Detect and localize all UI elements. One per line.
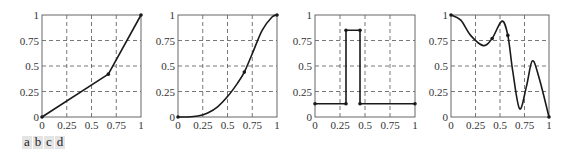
data-point-marker (358, 29, 362, 33)
panel-label-d[interactable]: d (55, 136, 65, 149)
data-point-marker (449, 13, 453, 17)
data-point-marker (313, 102, 317, 106)
y-tick-label: 1 (170, 9, 176, 21)
x-tick-label: 0.5 (493, 119, 507, 131)
data-point-marker (413, 102, 417, 106)
x-tick-label: 0 (448, 119, 454, 131)
data-point-marker (107, 72, 111, 76)
x-tick-label: 0.75 (243, 119, 263, 131)
x-tick-label: 0.25 (57, 119, 77, 131)
chart-panel-b: 00.250.50.75100.250.50.751 (156, 9, 280, 131)
data-point-marker (176, 115, 180, 119)
data-point-marker (344, 102, 348, 106)
y-tick-label: 0.5 (434, 60, 448, 72)
data-point-marker (490, 37, 494, 41)
panel-label-b[interactable]: b (33, 136, 43, 149)
x-tick-label: 0.25 (330, 119, 350, 131)
chart-panel-c: 00.250.50.75100.250.50.751 (293, 9, 418, 131)
y-tick-label: 0 (170, 111, 176, 123)
y-tick-label: 0 (307, 111, 313, 123)
y-tick-label: 0.25 (293, 86, 313, 98)
x-tick-label: 1 (546, 119, 552, 131)
y-tick-label: 1 (34, 9, 40, 21)
x-tick-label: 0.75 (380, 119, 400, 131)
x-tick-label: 0 (39, 119, 45, 131)
y-tick-label: 0.75 (293, 35, 313, 47)
x-tick-label: 0.25 (466, 119, 486, 131)
panel-label-row: a b c d (22, 136, 65, 149)
y-tick-label: 0 (443, 111, 449, 123)
data-point-marker (275, 13, 279, 17)
x-tick-label: 0.75 (107, 119, 127, 131)
y-tick-label: 0.75 (20, 35, 40, 47)
figure-panels: 00.250.50.75100.250.50.75100.250.50.7510… (0, 0, 570, 151)
x-tick-label: 0 (312, 119, 318, 131)
x-tick-label: 0.5 (358, 119, 372, 131)
data-point-marker (547, 115, 551, 119)
y-tick-label: 1 (307, 9, 313, 21)
y-tick-label: 0.25 (20, 86, 40, 98)
y-tick-label: 0 (34, 111, 40, 123)
y-tick-label: 0.75 (156, 35, 176, 47)
x-tick-label: 1 (412, 119, 418, 131)
x-tick-label: 0.75 (515, 119, 535, 131)
y-tick-label: 0.75 (429, 35, 449, 47)
panel-label-a[interactable]: a (22, 136, 32, 149)
data-point-marker (139, 13, 143, 17)
x-tick-label: 1 (274, 119, 280, 131)
data-point-marker (40, 115, 44, 119)
x-tick-label: 0.5 (221, 119, 235, 131)
x-tick-label: 0 (175, 119, 181, 131)
chart-panel-d: 00.250.50.75100.250.50.751 (429, 9, 552, 131)
y-tick-label: 1 (443, 9, 449, 21)
data-point-marker (358, 102, 362, 106)
x-tick-label: 0.5 (85, 119, 99, 131)
data-point-marker (344, 29, 348, 33)
panel-label-c[interactable]: c (44, 136, 54, 149)
x-tick-label: 0.25 (193, 119, 213, 131)
data-point-marker (243, 70, 247, 74)
y-tick-label: 0.25 (429, 86, 449, 98)
chart-panel-a: 00.250.50.75100.250.50.751 (20, 9, 144, 131)
x-tick-label: 1 (138, 119, 144, 131)
y-tick-label: 0.25 (156, 86, 176, 98)
data-point-marker (506, 34, 510, 38)
y-tick-label: 0.5 (161, 60, 175, 72)
y-tick-label: 0.5 (298, 60, 312, 72)
y-tick-label: 0.5 (25, 60, 39, 72)
